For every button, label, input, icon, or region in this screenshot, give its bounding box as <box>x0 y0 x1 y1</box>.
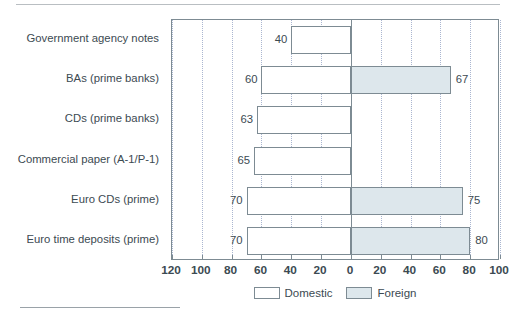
bar-row: 7080 <box>172 221 498 261</box>
bar-domestic <box>291 26 351 54</box>
bar-domestic <box>247 187 351 215</box>
x-axis-tick <box>261 255 262 259</box>
bar-value-label-foreign: 67 <box>456 72 496 87</box>
bar-value-label-foreign: 75 <box>468 193 508 208</box>
bar-row: 40 <box>172 20 498 60</box>
footnote-divider-rule <box>20 307 180 308</box>
bar-domestic <box>257 106 351 134</box>
bar-domestic <box>247 227 351 255</box>
legend-swatch-foreign-icon <box>346 287 372 299</box>
x-axis-tick <box>500 255 501 259</box>
category-label: Euro CDs (prime) <box>0 193 159 206</box>
bar-domestic <box>261 66 350 94</box>
bar-foreign <box>351 187 463 215</box>
category-label: Euro time deposits (prime) <box>0 233 159 246</box>
bar-value-label-foreign: 80 <box>475 233 515 248</box>
x-axis-tick <box>440 255 441 259</box>
legend-item-foreign: Foreign <box>346 287 416 300</box>
bar-value-label-domestic: 65 <box>210 153 250 168</box>
bar-foreign <box>351 227 470 255</box>
x-axis-tick <box>321 255 322 259</box>
category-label: Commercial paper (A-1/P-1) <box>0 153 159 166</box>
x-axis-tick <box>351 255 352 259</box>
plot-area: 406067636570757080 <box>171 19 499 260</box>
x-axis-tick <box>470 255 471 259</box>
legend-label-foreign: Foreign <box>377 287 416 300</box>
bar-row: 6067 <box>172 60 498 100</box>
legend-swatch-domestic-icon <box>254 287 280 299</box>
bar-row: 7075 <box>172 181 498 221</box>
x-axis-tick <box>291 255 292 259</box>
bar-value-label-domestic: 70 <box>203 233 243 248</box>
category-label: Government agency notes <box>0 32 159 45</box>
x-axis-tick <box>172 255 173 259</box>
bar-domestic <box>254 147 351 175</box>
x-axis-tick <box>381 255 382 259</box>
legend-label-domestic: Domestic <box>285 287 333 300</box>
x-axis-tick-label: 100 <box>479 263 516 278</box>
x-axis-tick <box>411 255 412 259</box>
figure-container: Government agency notesBAs (prime banks)… <box>0 0 516 319</box>
category-label: BAs (prime banks) <box>0 72 159 85</box>
top-divider-rule <box>16 4 500 5</box>
bar-value-label-domestic: 70 <box>203 193 243 208</box>
legend-item-domestic: Domestic <box>254 287 333 300</box>
x-axis-tick <box>232 255 233 259</box>
category-label: CDs (prime banks) <box>0 112 159 125</box>
bar-value-label-domestic: 60 <box>217 72 257 87</box>
x-axis-tick-labels: 12010080604020020406080100 <box>0 263 516 281</box>
category-axis-labels: Government agency notesBAs (prime banks)… <box>0 19 165 260</box>
zero-axis-line <box>351 20 352 259</box>
gridline <box>500 20 501 259</box>
bar-value-label-domestic: 63 <box>213 112 253 127</box>
chart-legend: Domestic Foreign <box>171 284 499 302</box>
bar-row: 63 <box>172 100 498 140</box>
x-axis-tick <box>202 255 203 259</box>
bar-value-label-domestic: 40 <box>247 32 287 47</box>
bar-row: 65 <box>172 141 498 181</box>
bar-foreign <box>351 66 451 94</box>
